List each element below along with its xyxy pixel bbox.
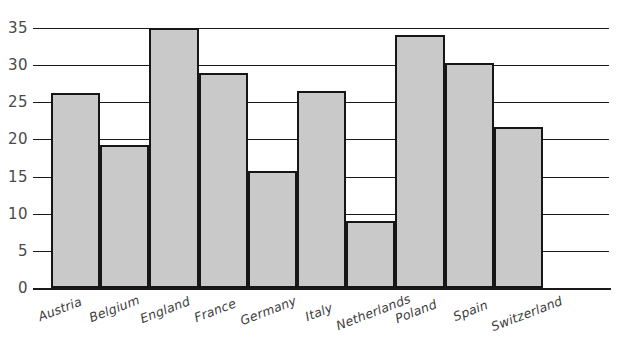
category-label-england: England [138, 293, 192, 326]
category-label-spain: Spain [451, 297, 490, 324]
category-label-belgium: Belgium [87, 292, 142, 325]
bar-chart: 35 30 25 20 15 10 5 0 Austria Belgium En… [0, 0, 618, 359]
category-label-germany: Germany [238, 293, 299, 328]
category-label-austria: Austria [36, 294, 84, 324]
x-axis-category-labels: Austria Belgium England France Germany I… [0, 0, 618, 359]
category-label-switzerland: Switzerland [489, 293, 565, 334]
category-label-france: France [192, 295, 238, 325]
category-label-italy: Italy [303, 300, 335, 324]
